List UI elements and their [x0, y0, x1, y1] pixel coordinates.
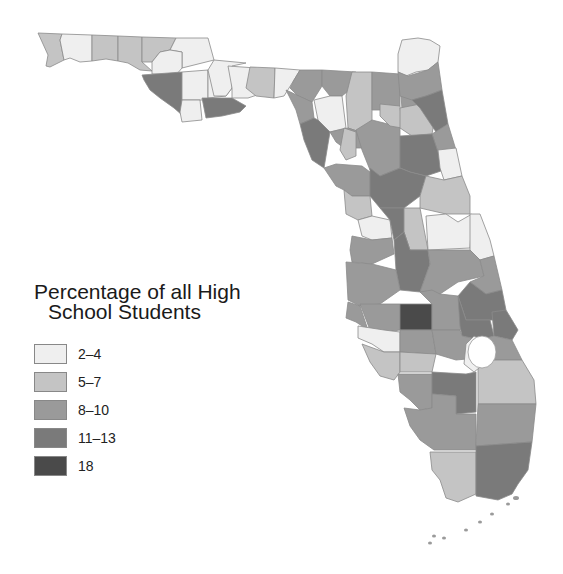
county	[438, 148, 462, 180]
county	[430, 452, 476, 502]
county	[476, 442, 532, 500]
north-counties	[286, 38, 462, 180]
county	[420, 176, 470, 214]
legend-label: 5–7	[78, 374, 101, 390]
county	[92, 35, 118, 61]
legend-item: 8–10	[34, 396, 241, 424]
county	[358, 216, 392, 240]
county	[492, 310, 518, 340]
county	[398, 374, 432, 410]
county	[350, 236, 394, 264]
central-counties	[324, 164, 506, 320]
lake-okeechobee	[468, 336, 496, 368]
county	[426, 214, 472, 250]
legend-item: 2–4	[34, 340, 241, 368]
county	[400, 330, 436, 354]
county	[38, 33, 64, 67]
legend-swatch	[34, 456, 67, 476]
county	[182, 70, 208, 100]
legend-swatch	[34, 428, 67, 448]
county	[476, 404, 536, 446]
county	[60, 34, 92, 62]
legend-title: Percentage of all High School Students	[34, 282, 241, 322]
county	[202, 98, 246, 118]
legend-swatch	[34, 372, 67, 392]
legend-item: 18	[34, 452, 241, 480]
county	[400, 304, 432, 330]
county	[324, 164, 370, 196]
panhandle-counties	[38, 33, 300, 122]
legend-swatch	[34, 400, 67, 420]
county	[142, 72, 182, 115]
legend-label: 8–10	[78, 402, 109, 418]
legend-label: 2–4	[78, 346, 101, 362]
legend-item: 5–7	[34, 368, 241, 396]
county	[180, 100, 202, 122]
florida-keys	[428, 496, 519, 545]
legend-item: 11–13	[34, 424, 241, 452]
legend-label: 11–13	[78, 430, 116, 446]
legend-swatch	[34, 344, 67, 364]
legend-items: 2–4 5–7 8–10 11–13 18	[34, 340, 241, 480]
county	[346, 262, 400, 306]
map-legend: Percentage of all High School Students 2…	[34, 282, 241, 480]
legend-label: 18	[78, 458, 94, 474]
county	[400, 352, 436, 372]
legend-title-line2: School Students	[34, 302, 241, 322]
